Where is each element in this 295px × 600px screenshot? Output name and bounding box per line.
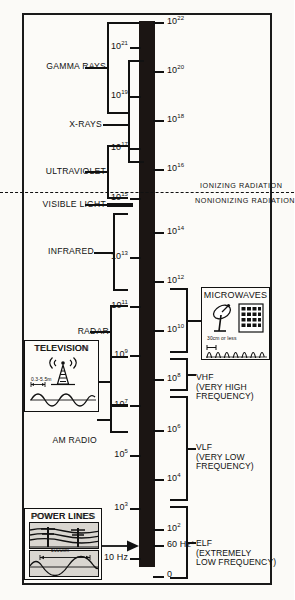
- power-lines-waveform: [30, 551, 99, 577]
- ticklabel-1e20: 1020: [167, 66, 184, 75]
- tick-60hz: [153, 545, 164, 547]
- tick-1e13: [130, 257, 141, 259]
- power-lines-scene: [29, 522, 99, 549]
- category-label-power-lines: POWER LINES: [28, 512, 98, 521]
- tick-1e8: [153, 379, 164, 381]
- ionizing-radiation-label: IONIZING RADIATION: [200, 181, 282, 190]
- tick-1e21: [130, 47, 141, 49]
- band-elf: ELF (EXTREMELY LOW FREQUENCY): [196, 539, 276, 568]
- category-label-ultraviolet: ULTRAVIOLET: [26, 167, 106, 176]
- power-lines-waveform-scene: [29, 550, 99, 577]
- ionizing-divider: [0, 192, 294, 193]
- category-label-x-rays: X-RAYS: [52, 120, 102, 129]
- tick-1e11: [130, 306, 141, 308]
- band-vhf: VHF (VERY HIGH FREQUENCY): [196, 373, 254, 402]
- tick-1e15: [130, 198, 141, 200]
- ticklabel-1e10: 1010: [167, 325, 184, 334]
- illustration-box-microwaves: MICROWAVES: [201, 287, 270, 360]
- tick-1e17: [130, 148, 141, 150]
- microwave-scene: [206, 301, 267, 334]
- em-spectrum-figure: IONIZING RADIATION NONIONIZING RADIATION…: [0, 0, 294, 600]
- television-waveform: [30, 382, 96, 411]
- ticklabel-1e4: 104: [167, 474, 181, 483]
- band-vlf-line2: FREQUENCY): [196, 462, 254, 472]
- tick-1e14: [153, 232, 164, 234]
- spectrum-spine: [139, 21, 155, 567]
- category-label-gamma-rays: GAMMA RAYS: [32, 62, 106, 71]
- tick-10hz: [130, 558, 141, 560]
- tick-1e2: [153, 529, 164, 531]
- transmission-tower-icon: [30, 523, 99, 549]
- wavelength-label-power-lines: 5000km: [51, 547, 69, 553]
- connector-microwaves: [186, 320, 202, 322]
- tick-zero: [153, 576, 164, 578]
- satellite-dish-icon: [206, 301, 267, 334]
- tick-1e20: [153, 71, 164, 73]
- tick-1e3: [130, 508, 141, 510]
- band-elf-line2: LOW FREQUENCY): [196, 558, 276, 568]
- ticklabel-1e18: 1018: [167, 115, 184, 124]
- ticklabel-1e2: 102: [167, 524, 181, 533]
- ticklabel-1e8: 108: [167, 374, 181, 383]
- tick-1e12: [153, 281, 164, 283]
- power-lines-arrow: [101, 540, 141, 552]
- category-label-infrared: INFRARED: [48, 247, 94, 256]
- band-vlf: VLF (VERY LOW FREQUENCY): [196, 443, 254, 472]
- ticklabel-1e22: 1022: [167, 17, 184, 26]
- ticklabel-1e16: 1016: [167, 164, 184, 173]
- ticklabel-1e12: 1012: [167, 276, 184, 285]
- tick-1e19: [130, 96, 141, 98]
- tick-1e4: [153, 479, 164, 481]
- ticklabel-1e3: 103: [100, 503, 128, 512]
- illustration-title-microwaves: MICROWAVES: [202, 290, 269, 300]
- category-label-visible-light: VISIBLE LIGHT: [23, 200, 106, 209]
- tick-1e9: [130, 355, 141, 357]
- ticklabel-1e19: 1019: [100, 91, 128, 100]
- tick-1e7: [130, 405, 141, 407]
- ticklabel-1e21: 1021: [100, 42, 128, 51]
- tick-1e22: [153, 22, 164, 24]
- ticklabel-1e6: 106: [167, 425, 181, 434]
- band-vhf-line2: FREQUENCY): [196, 392, 254, 402]
- tick-1e6: [153, 430, 164, 432]
- tick-1e5: [130, 455, 141, 457]
- tick-1e10: [153, 330, 164, 332]
- nonionizing-radiation-label: NONIONIZING RADIATION: [195, 196, 294, 205]
- ticklabel-1e5: 105: [100, 450, 128, 459]
- microwave-waveform: [206, 341, 267, 358]
- tick-1e16: [153, 169, 164, 171]
- category-label-radar: RADAR: [61, 327, 109, 336]
- category-label-am-radio: AM RADIO: [43, 436, 97, 445]
- tick-1e18: [153, 120, 164, 122]
- category-label-television: TELEVISION: [28, 344, 95, 353]
- ticklabel-1e14: 1014: [167, 227, 184, 236]
